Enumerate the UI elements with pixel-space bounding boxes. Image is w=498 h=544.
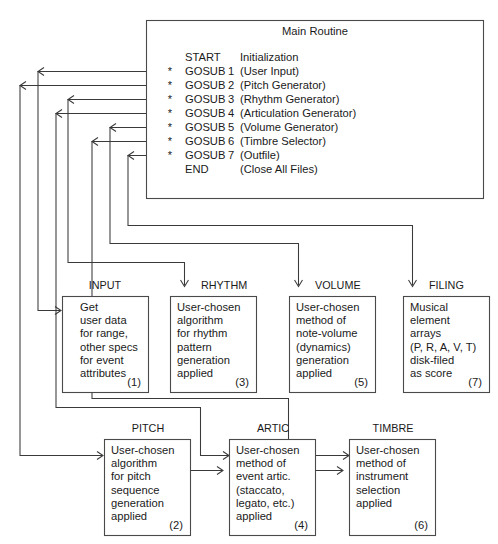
main-routine-description: (Rhythm Generator) xyxy=(240,93,340,105)
main-routine-description: (Outfile) xyxy=(240,149,280,161)
module-timbre: TIMBRE User-chosenmethod ofinstrumentsel… xyxy=(350,422,436,536)
module-rhythm: RHYTHM User-chosenalgorithmfor rhythmpat… xyxy=(171,279,257,393)
module-text-line: disk-filed xyxy=(410,354,454,366)
main-routine-keyword: GOSUB xyxy=(185,79,225,91)
module-text-line: attributes xyxy=(80,367,126,379)
module-text-line: Musical xyxy=(410,301,448,313)
main-routine-line-marker: * xyxy=(168,93,173,105)
module-text-line: for pitch xyxy=(111,470,151,482)
module-artic: ARTIC User-chosenmethod ofevent artic.(s… xyxy=(230,422,316,536)
main-routine-keyword: GOSUB xyxy=(185,65,225,77)
module-volume-caption: VOLUME xyxy=(315,279,361,291)
module-text-line: (P, R, A, V, T) xyxy=(410,341,477,353)
module-text-line: method of xyxy=(296,314,347,326)
module-text-line: element xyxy=(410,314,451,326)
module-pitch: PITCH User-chosenalgorithmfor pitchseque… xyxy=(105,422,191,536)
flowchart-diagram: Main Routine STARTInitialization*GOSUB1(… xyxy=(0,0,498,544)
module-timbre-number: (6) xyxy=(414,519,428,531)
main-routine-keyword: GOSUB xyxy=(185,121,225,133)
module-input: INPUT Getuser datafor range,other specsf… xyxy=(63,279,149,393)
module-filing-number: (7) xyxy=(468,376,482,388)
module-text-line: note-volume xyxy=(296,327,358,339)
module-text-line: arrays xyxy=(410,327,441,339)
main-routine-keyword: GOSUB xyxy=(185,93,225,105)
module-rhythm-number: (3) xyxy=(235,376,249,388)
main-routine-number: 6 xyxy=(228,135,234,147)
main-routine-title: Main Routine xyxy=(282,25,348,37)
module-text-line: User-chosen xyxy=(356,444,419,456)
module-text-line: pattern xyxy=(177,341,212,353)
main-routine-line-marker: * xyxy=(168,65,173,77)
module-text-line: algorithm xyxy=(177,314,223,326)
main-routine-keyword: GOSUB xyxy=(185,107,225,119)
module-text-line: instrument xyxy=(356,470,409,482)
module-text-line: other specs xyxy=(80,341,138,353)
main-routine-line-marker: * xyxy=(168,149,173,161)
main-routine-description: (Pitch Generator) xyxy=(240,79,326,91)
module-filing-caption: FILING xyxy=(429,279,464,291)
module-text-line: User-chosen xyxy=(236,444,299,456)
main-routine-line-marker: * xyxy=(168,121,173,133)
main-routine-number: 1 xyxy=(228,65,234,77)
module-text-line: applied xyxy=(356,497,392,509)
main-routine-description: (Timbre Selector) xyxy=(240,135,326,147)
module-input-number: (1) xyxy=(127,376,141,388)
module-text-line: applied xyxy=(236,510,272,522)
module-input-caption: INPUT xyxy=(89,279,122,291)
main-routine-description: (User Input) xyxy=(240,65,299,77)
module-text-line: legato, etc.) xyxy=(236,497,295,509)
module-artic-caption: ARTIC xyxy=(257,422,289,434)
module-text-line: Get xyxy=(80,301,99,313)
module-text-line: for range, xyxy=(80,327,128,339)
module-text-line: generation xyxy=(296,354,349,366)
main-routine-number: 3 xyxy=(228,93,234,105)
module-text-line: generation xyxy=(111,497,164,509)
module-text-line: method of xyxy=(356,457,407,469)
module-rhythm-caption: RHYTHM xyxy=(201,279,247,291)
main-routine-line-marker: * xyxy=(168,107,173,119)
module-text-line: method of xyxy=(236,457,287,469)
module-text-line: (staccato, xyxy=(236,484,285,496)
module-text-line: for rhythm xyxy=(177,327,227,339)
module-artic-number: (4) xyxy=(294,519,308,531)
module-volume-number: (5) xyxy=(354,376,368,388)
module-text-line: User-chosen xyxy=(111,444,174,456)
module-pitch-caption: PITCH xyxy=(132,422,164,434)
main-routine-line-marker: * xyxy=(168,135,173,147)
main-routine-keyword: GOSUB xyxy=(185,149,225,161)
module-text-line: (dynamics) xyxy=(296,341,351,353)
module-text-line: applied xyxy=(177,367,213,379)
main-routine-description: Initialization xyxy=(240,51,298,63)
main-routine-number: 7 xyxy=(228,149,234,161)
module-text-line: User-chosen xyxy=(296,301,359,313)
module-text-line: algorithm xyxy=(111,457,157,469)
module-text-line: sequence xyxy=(111,484,160,496)
module-timbre-caption: TIMBRE xyxy=(373,422,414,434)
main-routine-line-marker: * xyxy=(168,79,173,91)
module-text-line: User-chosen xyxy=(177,301,240,313)
module-text-line: applied xyxy=(111,510,147,522)
module-text-line: applied xyxy=(296,367,332,379)
module-text-line: selection xyxy=(356,484,400,496)
main-routine-keyword: END xyxy=(185,163,209,175)
main-routine-number: 5 xyxy=(228,121,234,133)
module-text-line: event artic. xyxy=(236,470,291,482)
module-volume: VOLUME User-chosenmethod ofnote-volume(d… xyxy=(290,279,376,393)
main-routine-box: Main Routine STARTInitialization*GOSUB1(… xyxy=(147,21,484,199)
module-pitch-number: (2) xyxy=(169,519,183,531)
main-routine-keyword: GOSUB xyxy=(185,135,225,147)
module-text-line: user data xyxy=(80,314,127,326)
module-filing: FILING Musicalelementarrays(P, R, A, V, … xyxy=(404,279,490,393)
main-routine-number: 2 xyxy=(228,79,234,91)
module-text-line: generation xyxy=(177,354,230,366)
main-routine-keyword: START xyxy=(185,51,221,63)
module-text-line: for event xyxy=(80,354,124,366)
main-routine-description: (Volume Generator) xyxy=(240,121,339,133)
main-routine-description: (Articulation Generator) xyxy=(240,107,357,119)
main-routine-number: 4 xyxy=(228,107,234,119)
main-routine-description: (Close All Files) xyxy=(240,163,318,175)
module-text-line: as score xyxy=(410,367,452,379)
